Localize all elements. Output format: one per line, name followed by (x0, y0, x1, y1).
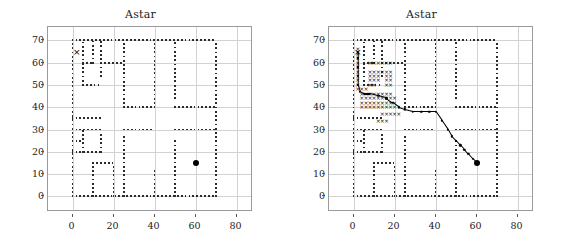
obstacle-cell (82, 63, 84, 65)
obstacle-cell (470, 39, 472, 41)
obstacle-cell (363, 142, 365, 144)
obstacle-cell (467, 106, 469, 108)
obstacle-cell (455, 145, 457, 147)
obstacle-cell (357, 140, 359, 142)
obstacle-cell (455, 55, 457, 57)
obstacle-cell (435, 64, 437, 66)
obstacle-cell (212, 39, 214, 41)
obstacle-cell (100, 162, 102, 164)
obstacle-cell (373, 41, 375, 43)
obstacle-cell (157, 195, 159, 197)
obstacle-cell (435, 170, 437, 172)
obstacle-cell (76, 117, 78, 119)
obstacle-cell (72, 85, 74, 87)
obstacle-cell (111, 39, 113, 41)
x-tick-mark (236, 214, 237, 217)
obstacle-cell (113, 179, 115, 181)
obstacle-cell (113, 166, 115, 168)
obstacle-cell (394, 166, 396, 168)
obstacle-cell (353, 145, 355, 147)
obstacle-cell (182, 106, 184, 108)
obstacle-cell (154, 191, 156, 193)
obstacle-cell (455, 80, 457, 82)
obstacle-cell (481, 195, 483, 197)
obstacle-cell (455, 170, 457, 172)
obstacle-cell (127, 129, 129, 131)
obstacle-cell (373, 162, 375, 164)
obstacle-cell (404, 64, 406, 66)
obstacle-cell (376, 39, 378, 41)
obstacle-cell (130, 39, 132, 41)
y-tick-mark (322, 151, 325, 152)
obstacle-cell (154, 51, 156, 53)
obstacle-cell (493, 195, 495, 197)
obstacle-cell (123, 195, 125, 197)
obstacle-cell (381, 134, 383, 136)
obstacle-cell (394, 191, 396, 193)
y-tick-mark (322, 39, 325, 40)
obstacle-cell (87, 129, 89, 131)
obstacle-cell (174, 162, 176, 164)
panel-right-x-axis: 020406080 (328, 214, 533, 230)
obstacle-cell (364, 117, 366, 119)
obstacle-cell (123, 162, 125, 164)
obstacle-cell (92, 191, 94, 193)
obstacle-cell (396, 39, 398, 41)
obstacle-cell (353, 153, 355, 155)
obstacle-cell (113, 187, 115, 189)
obstacle-cell (72, 128, 74, 130)
obstacle-cell (215, 140, 217, 142)
obstacle-cell (192, 195, 194, 197)
obstacle-cell (196, 39, 198, 41)
obstacle-cell (215, 132, 217, 134)
obstacle-cell (82, 142, 84, 144)
obstacle-cell (401, 62, 403, 64)
obstacle-cell (72, 115, 74, 117)
obstacle-cell (82, 147, 84, 149)
obstacle-cell (496, 183, 498, 185)
obstacle-cell (455, 106, 457, 108)
obstacle-cell (123, 102, 125, 104)
obstacle-cell (404, 47, 406, 49)
obstacle-cell (169, 195, 171, 197)
obstacle-cell (91, 151, 93, 153)
obstacle-cell (381, 151, 383, 153)
obstacle-cell (427, 39, 429, 41)
obstacle-cell (408, 129, 410, 131)
obstacle-cell (174, 170, 176, 172)
obstacle-cell (384, 39, 386, 41)
gridline-vertical (196, 27, 197, 210)
obstacle-cell (92, 166, 94, 168)
obstacle-cell (455, 129, 457, 131)
obstacle-cell (496, 187, 498, 189)
obstacle-cell (404, 94, 406, 96)
obstacle-cell (376, 151, 378, 153)
obstacle-cell (455, 64, 457, 66)
obstacle-cell (389, 162, 391, 164)
obstacle-cell (496, 115, 498, 117)
obstacle-cell (194, 129, 196, 131)
obstacle-cell (416, 106, 418, 108)
obstacle-cell (123, 170, 125, 172)
obstacle-cell (204, 195, 206, 197)
obstacle-cell (123, 72, 125, 74)
obstacle-cell (100, 58, 102, 60)
obstacle-cell (185, 195, 187, 197)
obstacle-cell (455, 76, 457, 78)
panel-left-axes: × (47, 26, 252, 211)
obstacle-cell (485, 39, 487, 41)
obstacle-cell (100, 138, 102, 140)
obstacle-cell (100, 71, 102, 73)
obstacle-cell (205, 106, 207, 108)
obstacle-cell (174, 187, 176, 189)
obstacle-cell (90, 84, 92, 86)
obstacle-cell (174, 42, 176, 44)
obstacle-cell (208, 195, 210, 197)
panel-right-axes: ××××××××××××××××××××××××××××××××××××××××… (328, 26, 533, 211)
x-tick-mark (517, 214, 518, 217)
obstacle-cell (123, 129, 125, 131)
obstacle-cell (363, 130, 365, 132)
obstacle-cell (363, 54, 365, 56)
obstacle-cell (112, 62, 114, 64)
obstacle-cell (496, 174, 498, 176)
